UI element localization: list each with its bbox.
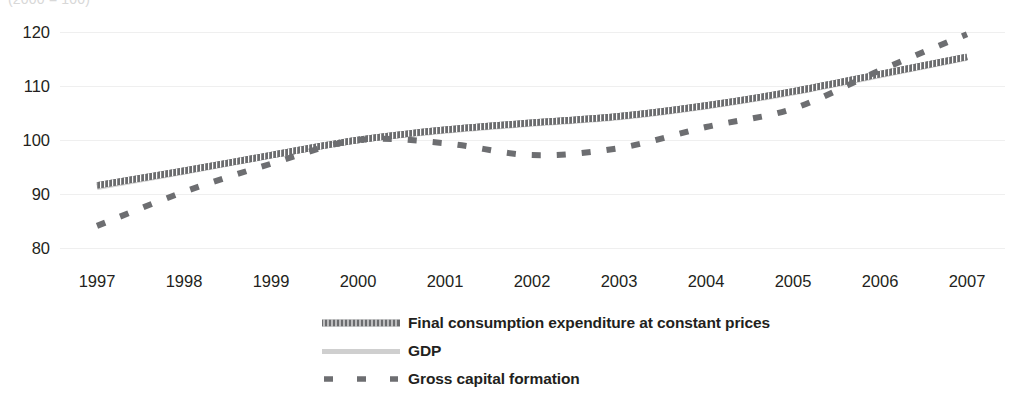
x-axis-tick: 1997 bbox=[79, 272, 116, 291]
legend-label: Gross capital formation bbox=[408, 370, 580, 388]
x-axis-tick: 2002 bbox=[514, 272, 551, 291]
x-axis-tick: 2000 bbox=[340, 272, 377, 291]
legend-item-gdp: GDP bbox=[322, 340, 770, 362]
x-axis-tick: 1999 bbox=[253, 272, 290, 291]
x-axis-tick: 2001 bbox=[427, 272, 464, 291]
hatched-thick-swatch bbox=[322, 316, 400, 330]
line-chart: (2000 = 100) 120 110 100 90 80 1997 1998… bbox=[0, 0, 1021, 414]
dashed-swatch bbox=[322, 372, 400, 386]
index-base-caption: (2000 = 100) bbox=[8, 0, 90, 7]
chart-legend: Final consumption expenditure at constan… bbox=[322, 312, 770, 390]
x-axis-tick: 2007 bbox=[949, 272, 986, 291]
legend-label: GDP bbox=[408, 342, 441, 360]
x-axis: 1997 1998 1999 2000 2001 2002 2003 2004 … bbox=[60, 264, 1005, 298]
plot-area: 120 110 100 90 80 bbox=[60, 24, 1005, 264]
solid-light-swatch bbox=[322, 344, 400, 358]
x-axis-tick: 2005 bbox=[775, 272, 812, 291]
y-axis-tick: 80 bbox=[32, 239, 50, 258]
x-axis-tick: 1998 bbox=[166, 272, 203, 291]
legend-item-final-consumption: Final consumption expenditure at constan… bbox=[322, 312, 770, 334]
y-axis-tick: 110 bbox=[24, 77, 50, 96]
y-axis-tick: 90 bbox=[32, 185, 50, 204]
series-lines bbox=[60, 24, 1005, 264]
x-axis-tick: 2004 bbox=[688, 272, 725, 291]
y-axis-tick: 120 bbox=[22, 23, 50, 42]
x-axis-tick: 2003 bbox=[601, 272, 638, 291]
y-axis-tick: 100 bbox=[22, 131, 50, 150]
legend-label: Final consumption expenditure at constan… bbox=[408, 314, 770, 332]
x-axis-tick: 2006 bbox=[862, 272, 899, 291]
legend-item-gross-capital-formation: Gross capital formation bbox=[322, 368, 770, 390]
